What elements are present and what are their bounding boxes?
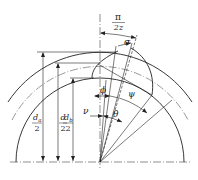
label-sigma: σ <box>124 37 131 47</box>
label-nu: ν <box>83 106 89 116</box>
svg-text:2: 2 <box>34 124 39 133</box>
label-theta: θ <box>113 109 119 119</box>
label-db-over-2-final: db 2 <box>63 113 73 133</box>
radial-line-6 <box>100 100 172 162</box>
svg-text:2: 2 <box>65 124 70 133</box>
tooth-profile-right <box>131 48 153 95</box>
label-psi: ψ <box>128 89 136 99</box>
gear-geometry-diagram: π 2z σ ϕ ψ ν θ da 2 d 2 <box>0 0 198 180</box>
svg-text:db: db <box>64 113 73 123</box>
svg-text:da: da <box>33 113 41 123</box>
label-pi: π <box>115 12 121 22</box>
label-phi: ϕ <box>100 85 106 95</box>
angle-arc-pi-2z <box>101 33 136 38</box>
tooth-profile-left <box>92 51 118 78</box>
label-da-over-2: da 2 <box>32 113 42 133</box>
label-2z: 2z <box>113 23 124 32</box>
radial-line-3 <box>100 43 132 162</box>
